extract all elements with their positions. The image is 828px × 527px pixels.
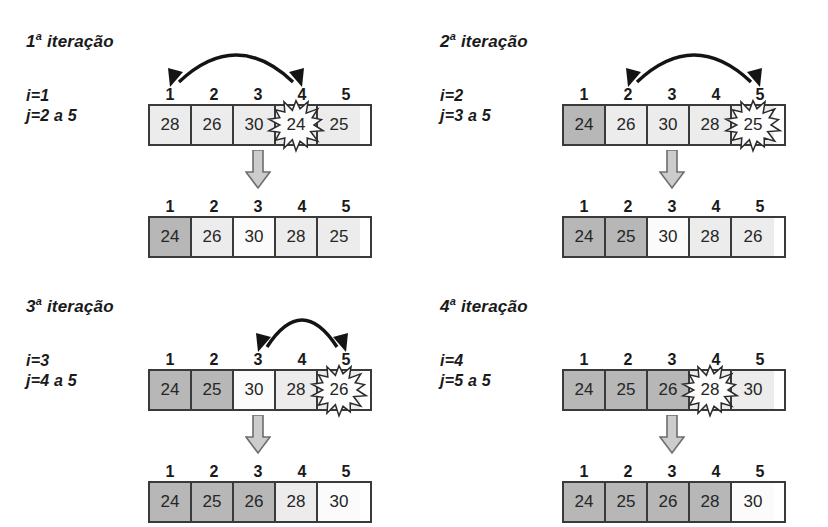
array-cell-value: 26 xyxy=(744,227,763,247)
array-cell: 28 xyxy=(276,483,318,521)
array-after-1: 123452426302825 xyxy=(148,198,372,258)
iteration-title-1: 1a iteração xyxy=(26,30,114,52)
iteration-word: iteração xyxy=(42,297,114,316)
array-cell-value: 26 xyxy=(617,115,636,135)
array-cell: 25 xyxy=(606,483,648,521)
array-cell-value: 28 xyxy=(287,380,306,400)
array-cell: 25 xyxy=(732,106,774,144)
array-index-row: 12345 xyxy=(562,351,786,369)
array-cell-value: 24 xyxy=(161,227,180,247)
iteration-variables-4: i=4j=5 a 5 xyxy=(440,351,491,391)
array-cell-value: 25 xyxy=(617,380,636,400)
array-cell: 24 xyxy=(564,106,606,144)
array-cell: 24 xyxy=(150,218,192,256)
array-cell-value: 26 xyxy=(245,492,264,512)
array-index-2: 2 xyxy=(192,463,236,481)
array-index-3: 3 xyxy=(236,86,280,104)
variable-i: i=1 xyxy=(26,86,77,106)
down-arrow-icon xyxy=(659,415,685,455)
array-cell-value: 28 xyxy=(701,115,720,135)
array-index-2: 2 xyxy=(606,198,650,216)
iteration-variables-1: i=1j=2 a 5 xyxy=(26,86,77,126)
iteration-variables-3: i=3j=4 a 5 xyxy=(26,351,77,391)
array-index-row: 12345 xyxy=(148,86,372,104)
array-index-row: 12345 xyxy=(562,463,786,481)
variable-i: i=2 xyxy=(440,86,491,106)
array-index-2: 2 xyxy=(606,463,650,481)
array-cell: 26 xyxy=(318,371,360,409)
array-index-5: 5 xyxy=(324,351,368,369)
array-cell: 25 xyxy=(318,218,360,256)
array-cell: 28 xyxy=(690,106,732,144)
iteration-number: 1 xyxy=(26,32,36,51)
array-cell-value: 30 xyxy=(659,227,678,247)
iteration-panel-4: 4a iteraçãoi=4j=5 a 51234524252628301234… xyxy=(414,283,828,527)
array-after-3: 123452425262830 xyxy=(148,463,372,523)
array-cells: 2425262830 xyxy=(562,481,786,523)
array-cell-value: 26 xyxy=(330,380,349,400)
array-cells: 2425262830 xyxy=(148,481,372,523)
variable-j: j=2 a 5 xyxy=(26,106,77,126)
array-index-3: 3 xyxy=(236,198,280,216)
array-before-1: 123452826302425 xyxy=(148,86,372,146)
array-cells: 2425262830 xyxy=(562,369,786,411)
array-index-4: 4 xyxy=(694,463,738,481)
array-index-4: 4 xyxy=(280,86,324,104)
array-cell-value: 28 xyxy=(287,227,306,247)
array-index-1: 1 xyxy=(148,198,192,216)
array-index-3: 3 xyxy=(650,198,694,216)
array-cell: 26 xyxy=(192,106,234,144)
array-cell: 28 xyxy=(276,218,318,256)
iteration-number: 2 xyxy=(440,32,450,51)
array-cell: 26 xyxy=(192,218,234,256)
array-index-2: 2 xyxy=(192,198,236,216)
array-cell-value: 24 xyxy=(575,227,594,247)
array-cell: 26 xyxy=(732,218,774,256)
array-index-1: 1 xyxy=(562,86,606,104)
array-index-5: 5 xyxy=(324,463,368,481)
array-index-5: 5 xyxy=(324,86,368,104)
array-before-2: 123452426302825 xyxy=(562,86,786,146)
array-cell-value: 28 xyxy=(161,115,180,135)
array-cell: 25 xyxy=(192,483,234,521)
array-cell: 25 xyxy=(606,218,648,256)
iteration-title-2: 2a iteração xyxy=(440,30,528,52)
array-cell-value: 24 xyxy=(575,380,594,400)
array-cells: 2426302825 xyxy=(148,216,372,258)
array-cell: 24 xyxy=(564,218,606,256)
array-index-3: 3 xyxy=(236,463,280,481)
down-arrow-icon xyxy=(659,150,685,190)
array-cell: 28 xyxy=(690,218,732,256)
array-index-1: 1 xyxy=(562,198,606,216)
iteration-word: iteração xyxy=(456,297,528,316)
array-index-4: 4 xyxy=(694,351,738,369)
array-cell: 25 xyxy=(192,371,234,409)
array-index-1: 1 xyxy=(562,351,606,369)
array-cell: 25 xyxy=(318,106,360,144)
array-cell: 26 xyxy=(648,483,690,521)
array-cell-value: 24 xyxy=(575,115,594,135)
array-index-3: 3 xyxy=(650,351,694,369)
array-cell-value: 24 xyxy=(287,115,306,135)
array-index-5: 5 xyxy=(738,86,782,104)
iteration-word: iteração xyxy=(456,32,528,51)
array-cell: 28 xyxy=(150,106,192,144)
array-cell-value: 30 xyxy=(245,380,264,400)
array-cell: 24 xyxy=(564,483,606,521)
array-cell: 30 xyxy=(318,483,360,521)
array-index-row: 12345 xyxy=(148,463,372,481)
iteration-number: 4 xyxy=(440,297,450,316)
array-cell: 30 xyxy=(234,106,276,144)
array-cell-value: 26 xyxy=(203,227,222,247)
array-index-4: 4 xyxy=(280,351,324,369)
down-arrow-icon xyxy=(245,150,271,190)
array-index-5: 5 xyxy=(738,198,782,216)
array-cell-value: 25 xyxy=(203,492,222,512)
array-index-1: 1 xyxy=(562,463,606,481)
array-index-2: 2 xyxy=(606,351,650,369)
array-cells: 2425302826 xyxy=(148,369,372,411)
array-after-2: 123452425302826 xyxy=(562,198,786,258)
array-cell-value: 30 xyxy=(330,492,349,512)
array-cell: 24 xyxy=(150,371,192,409)
array-index-2: 2 xyxy=(606,86,650,104)
